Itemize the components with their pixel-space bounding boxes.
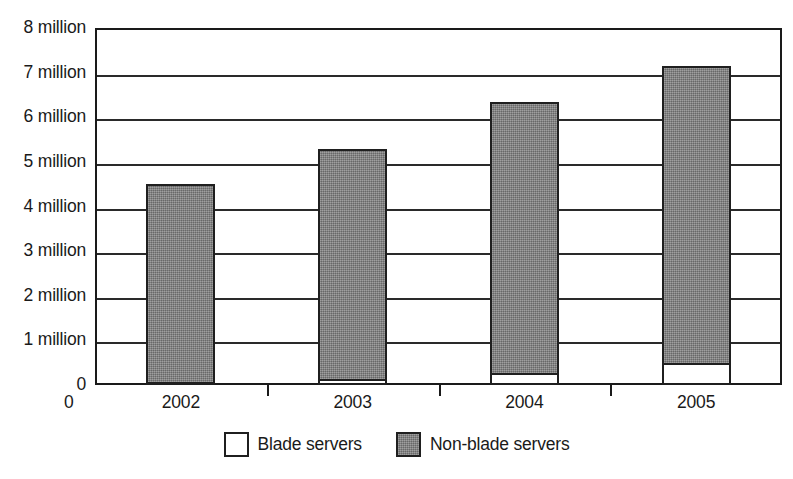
gridline bbox=[97, 119, 780, 121]
x-axis-tick-label: 2002 bbox=[162, 392, 200, 414]
legend-swatch-blade-servers bbox=[224, 432, 249, 457]
y-axis-tick-label: 8 million bbox=[24, 19, 86, 37]
y-axis-tick-label: 0 bbox=[76, 376, 86, 394]
gridline bbox=[97, 164, 780, 166]
y-axis-tick-label: 7 million bbox=[24, 64, 86, 82]
gridline bbox=[97, 342, 780, 344]
x-axis-tick-label: 2003 bbox=[334, 392, 372, 414]
x-axis-tick-label: 2005 bbox=[677, 392, 715, 414]
legend-label: Blade servers bbox=[258, 436, 362, 454]
x-axis-tick-label: 2004 bbox=[505, 392, 543, 414]
legend-label: Non-blade servers bbox=[430, 436, 570, 454]
x-axis-tick-mark bbox=[610, 385, 612, 396]
y-axis-tick-label: 5 million bbox=[24, 153, 86, 171]
legend-item: Blade servers bbox=[224, 432, 362, 457]
legend-swatch-non-blade-servers bbox=[396, 432, 421, 457]
chart-figure: 01 million2 million3 million4 million5 m… bbox=[0, 0, 793, 479]
x-axis-tick-mark bbox=[439, 385, 441, 396]
y-axis-tick-label: 6 million bbox=[24, 109, 86, 127]
gridline bbox=[97, 209, 780, 211]
gridline bbox=[97, 253, 780, 255]
y-axis-tick-label: 1 million bbox=[24, 332, 86, 350]
y-axis-tick-label: 4 million bbox=[24, 198, 86, 216]
y-axis-tick-label: 3 million bbox=[24, 242, 86, 260]
y-axis-tick-label: 2 million bbox=[24, 287, 86, 305]
legend-item: Non-blade servers bbox=[396, 432, 570, 457]
gridline bbox=[97, 75, 780, 77]
plot-area bbox=[95, 28, 782, 385]
gridline bbox=[97, 298, 780, 300]
x-axis-tick-mark bbox=[267, 385, 269, 396]
x-axis-origin-label: 0 bbox=[64, 392, 74, 414]
chart-legend: Blade serversNon-blade servers bbox=[0, 432, 793, 457]
